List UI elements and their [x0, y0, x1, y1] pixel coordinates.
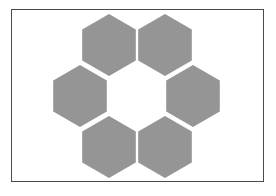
hexagon-bottom-left [82, 116, 136, 178]
hexagon-middle-left [53, 65, 107, 127]
hexagon-top-right [138, 14, 192, 76]
hexagon-middle-right [166, 65, 220, 127]
hexagon-top-left [82, 14, 136, 76]
hexagon-ring [0, 0, 276, 196]
hexagon-bottom-right [138, 116, 192, 178]
